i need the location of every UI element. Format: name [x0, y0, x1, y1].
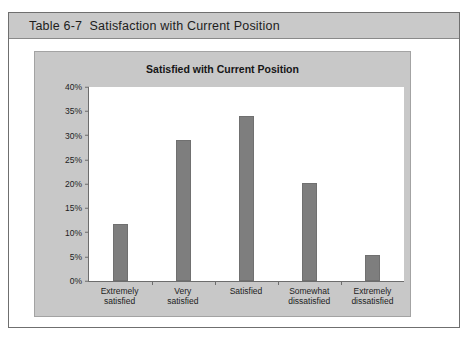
y-axis-tick: 25%	[65, 156, 89, 165]
y-axis-tick: 0%	[70, 277, 89, 286]
y-axis-tick: 10%	[65, 228, 89, 237]
y-axis-tick: 20%	[65, 180, 89, 189]
y-axis-tick-label: 0%	[70, 277, 82, 286]
x-axis-category-label: Extremelydissatisfied	[341, 286, 404, 306]
x-axis-category-line: dissatisfied	[278, 296, 341, 306]
bar	[365, 255, 380, 281]
x-axis-tick-mark	[341, 281, 342, 285]
y-axis-tick: 35%	[65, 107, 89, 116]
bar-series	[89, 87, 404, 281]
y-axis-tick-label: 40%	[65, 83, 82, 92]
x-axis-category-line: dissatisfied	[341, 296, 404, 306]
plot-area: 40%35%30%25%20%15%10%5%0%	[88, 87, 404, 282]
chart-panel: Satisfied with Current Position 40%35%30…	[34, 51, 411, 317]
y-axis-tick-label: 5%	[70, 253, 82, 262]
bar-slot	[278, 87, 341, 281]
y-axis-tick-label: 30%	[65, 131, 82, 140]
x-axis-category-line: satisfied	[88, 296, 151, 306]
bar-slot	[215, 87, 278, 281]
y-axis-tick-label: 35%	[65, 107, 82, 116]
x-axis-category-line: Very	[151, 286, 214, 296]
bar-slot	[89, 87, 152, 281]
x-axis-category-label: Satisfied	[214, 286, 277, 306]
x-axis-tick-mark	[152, 281, 153, 285]
x-axis-category-line: Extremely	[88, 286, 151, 296]
y-axis-tick-label: 25%	[65, 156, 82, 165]
x-axis-category-label: Extremelysatisfied	[88, 286, 151, 306]
figure-container: Table 6-7 Satisfaction with Current Posi…	[8, 12, 460, 328]
x-axis-tick-mark	[215, 281, 216, 285]
bar	[239, 116, 254, 281]
table-caption-text: Table 6-7 Satisfaction with Current Posi…	[29, 19, 280, 33]
x-axis-category-label: Verysatisfied	[151, 286, 214, 306]
y-axis-tick-label: 15%	[65, 204, 82, 213]
y-axis-tick-label: 20%	[65, 180, 82, 189]
x-axis-category-line: Somewhat	[278, 286, 341, 296]
bar-slot	[341, 87, 404, 281]
bar	[113, 224, 128, 281]
bar	[176, 140, 191, 281]
y-axis-tick-label: 10%	[65, 228, 82, 237]
y-axis-tick: 40%	[65, 83, 89, 92]
bar-slot	[152, 87, 215, 281]
x-axis-category-line: Satisfied	[214, 286, 277, 296]
x-axis-category-line: satisfied	[151, 296, 214, 306]
bar	[302, 183, 317, 281]
table-caption-bar: Table 6-7 Satisfaction with Current Posi…	[9, 13, 459, 39]
x-axis-labels: ExtremelysatisfiedVerysatisfiedSatisfied…	[88, 286, 404, 306]
y-axis-tick: 5%	[70, 253, 89, 262]
x-axis-category-line: Extremely	[341, 286, 404, 296]
y-axis-tick: 30%	[65, 131, 89, 140]
y-axis-tick: 15%	[65, 204, 89, 213]
x-axis-tick-mark	[278, 281, 279, 285]
x-axis-category-label: Somewhatdissatisfied	[278, 286, 341, 306]
chart-title: Satisfied with Current Position	[35, 63, 410, 75]
